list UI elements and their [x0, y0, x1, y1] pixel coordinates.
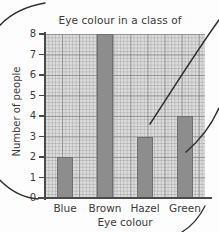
- x-axis-label-green: Green: [165, 201, 205, 215]
- y-axis-tick-label: 1: [24, 173, 36, 183]
- y-axis-tick-label: 3: [24, 132, 36, 142]
- y-axis-title: Number of people: [11, 47, 22, 177]
- x-axis-label-blue: Blue: [45, 201, 85, 215]
- y-axis-tick-label: 7: [24, 50, 36, 60]
- bars-container: [45, 34, 205, 198]
- y-axis-tick: [39, 33, 45, 34]
- bar-chart-screenshot: Eye colour in a class of 16 year old stu…: [0, 0, 219, 232]
- y-axis-tick: [39, 136, 45, 137]
- y-axis-tick-label: 4: [24, 111, 36, 121]
- y-axis-tick-label: 6: [24, 70, 36, 80]
- y-axis-tick: [39, 177, 45, 178]
- x-axis-label-hazel: Hazel: [125, 201, 165, 215]
- y-axis-tick-label: 5: [24, 91, 36, 101]
- y-axis-tick-labels: 012345678: [22, 0, 36, 232]
- y-axis-tick: [39, 115, 45, 116]
- x-axis-title: Eye colour: [45, 216, 205, 228]
- plot-area: [45, 34, 205, 198]
- x-axis-label-brown: Brown: [85, 201, 125, 215]
- y-axis-tick: [39, 156, 45, 157]
- bar-green: [177, 116, 194, 198]
- y-axis-tick: [39, 197, 45, 198]
- y-axis-tick: [39, 74, 45, 75]
- y-axis-tick-label: 2: [24, 152, 36, 162]
- bar-hazel: [137, 137, 154, 199]
- y-axis-tick-label: 0: [24, 193, 36, 203]
- y-axis-tick: [39, 95, 45, 96]
- y-axis-tick-label: 8: [24, 29, 36, 39]
- y-axis-tick: [39, 54, 45, 55]
- bar-blue: [57, 157, 74, 198]
- chart-title-line-1: Eye colour in a class of: [58, 14, 181, 26]
- x-axis-line: [38, 197, 212, 199]
- x-axis-category-labels: BlueBrownHazelGreen: [45, 201, 211, 217]
- bar-brown: [97, 34, 114, 198]
